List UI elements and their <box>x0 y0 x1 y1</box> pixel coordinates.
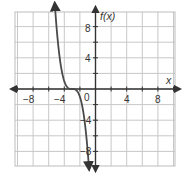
x-axis-title: x <box>165 74 172 86</box>
graph: x f(x) 0 −8 −4 4 8 8 4 −4 −8 <box>0 0 182 177</box>
x-tick-label-neg4: −4 <box>54 94 66 105</box>
y-tick-label-4: 4 <box>85 53 91 64</box>
function-curve <box>55 6 89 167</box>
x-tick-label-neg8: −8 <box>23 94 35 105</box>
origin-label: 0 <box>84 92 90 103</box>
y-tick-label-8: 8 <box>85 23 91 34</box>
y-tick-label-neg8: −8 <box>80 146 92 157</box>
y-tick-label-neg4: −4 <box>80 115 92 126</box>
x-tick-label-8: 8 <box>155 94 161 105</box>
y-axis-title: f(x) <box>100 10 115 22</box>
x-tick-label-4: 4 <box>124 94 130 105</box>
